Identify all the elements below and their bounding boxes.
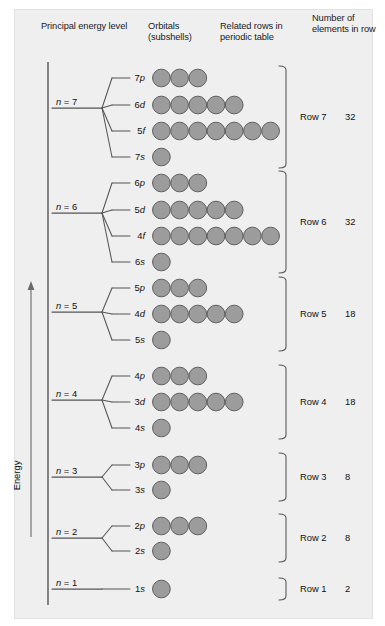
orbital-circle	[207, 201, 225, 219]
principal-level-label-n6: n = 6	[56, 201, 77, 212]
orbital-circle	[171, 305, 189, 323]
orbital-label-7p: 7p	[105, 72, 145, 83]
orbital-circle	[207, 122, 225, 140]
principal-level-label-n5: n = 5	[56, 300, 77, 311]
orbital-circle	[171, 96, 189, 114]
orbital-circle	[171, 517, 189, 535]
row-brackets	[279, 66, 286, 600]
orbital-circle	[171, 122, 189, 140]
orbital-circle	[225, 305, 243, 323]
orbital-circle	[153, 580, 171, 598]
orbital-circle	[171, 69, 189, 87]
orbital-circle	[189, 456, 207, 474]
element-count-row-1: 2	[345, 583, 350, 594]
orbital-circle	[171, 227, 189, 245]
orbital-circle	[189, 305, 207, 323]
orbital-label-5d: 5d	[105, 204, 145, 215]
orbital-circle	[153, 253, 171, 271]
orbital-circle	[153, 542, 171, 560]
orbital-circle	[262, 227, 280, 245]
orbital-circle	[189, 122, 207, 140]
orbital-circle	[225, 227, 243, 245]
orbital-circle	[153, 201, 171, 219]
orbital-circle	[189, 279, 207, 297]
orbital-circle	[153, 96, 171, 114]
orbital-circle	[171, 174, 189, 192]
orbital-circle	[207, 305, 225, 323]
row-label-7: Row 7	[300, 111, 327, 122]
orbital-label-2s: 2s	[105, 545, 145, 556]
orbital-circle	[189, 227, 207, 245]
axis-art	[28, 62, 48, 605]
orbital-circle	[171, 367, 189, 385]
principal-level-label-n3: n = 3	[56, 465, 77, 476]
principal-level-label-n1: n = 1	[56, 577, 77, 588]
orbital-circle	[171, 201, 189, 219]
orbital-label-4s: 4s	[105, 422, 145, 433]
orbital-circles	[153, 69, 280, 598]
orbital-circle	[189, 96, 207, 114]
row-label-2: Row 2	[300, 532, 327, 543]
orbital-circle	[171, 456, 189, 474]
orbital-circle	[153, 305, 171, 323]
orbital-label-1s: 1s	[105, 583, 145, 594]
row-label-5: Row 5	[300, 308, 327, 319]
orbital-circle	[225, 393, 243, 411]
orbital-label-6d: 6d	[105, 99, 145, 110]
orbital-circle	[189, 393, 207, 411]
row-label-3: Row 3	[300, 471, 327, 482]
orbital-circle	[189, 174, 207, 192]
orbital-label-5f: 5f	[105, 125, 145, 136]
orbital-circle	[153, 227, 171, 245]
orbital-circle	[207, 227, 225, 245]
orbital-label-2p: 2p	[105, 520, 145, 531]
orbital-circle	[153, 331, 171, 349]
energy-level-diagram-figure: Principal energy level Orbitals (subshel…	[0, 0, 385, 626]
orbital-label-6s: 6s	[105, 256, 145, 267]
orbital-circle	[153, 148, 171, 166]
orbital-label-4d: 4d	[105, 308, 145, 319]
orbital-circle	[153, 481, 171, 499]
element-count-row-3: 8	[345, 471, 350, 482]
orbital-circle	[225, 201, 243, 219]
orbital-circle	[244, 227, 262, 245]
row-label-6: Row 6	[300, 216, 327, 227]
orbital-circle	[189, 201, 207, 219]
orbital-circle	[262, 122, 280, 140]
orbital-circle	[153, 393, 171, 411]
orbital-circle	[189, 367, 207, 385]
principal-level-label-n2: n = 2	[56, 526, 77, 537]
orbital-circle	[153, 456, 171, 474]
orbital-label-5s: 5s	[105, 334, 145, 345]
orbital-label-3d: 3d	[105, 396, 145, 407]
orbital-circle	[153, 174, 171, 192]
orbital-circle	[153, 69, 171, 87]
principal-level-label-n7: n = 7	[56, 96, 77, 107]
row-label-1: Row 1	[300, 583, 327, 594]
orbital-label-3s: 3s	[105, 484, 145, 495]
orbital-label-3p: 3p	[105, 459, 145, 470]
orbital-label-4f: 4f	[105, 230, 145, 241]
row-label-4: Row 4	[300, 396, 327, 407]
orbital-circle	[153, 367, 171, 385]
element-count-row-4: 18	[345, 396, 355, 407]
principal-level-label-n4: n = 4	[56, 388, 77, 399]
orbital-circle	[207, 96, 225, 114]
orbital-circle	[225, 96, 243, 114]
element-count-row-5: 18	[345, 308, 355, 319]
orbital-circle	[225, 122, 243, 140]
element-count-row-6: 32	[345, 216, 355, 227]
orbital-circle	[153, 419, 171, 437]
orbital-circle	[189, 69, 207, 87]
orbital-circle	[189, 517, 207, 535]
orbital-circle	[171, 393, 189, 411]
orbital-label-4p: 4p	[105, 370, 145, 381]
orbital-circle	[153, 517, 171, 535]
orbital-label-6p: 6p	[105, 177, 145, 188]
orbital-circle	[244, 122, 262, 140]
orbital-circle	[171, 279, 189, 297]
orbital-label-7s: 7s	[105, 151, 145, 162]
orbital-circle	[207, 393, 225, 411]
element-count-row-7: 32	[345, 111, 355, 122]
orbital-circle	[153, 279, 171, 297]
